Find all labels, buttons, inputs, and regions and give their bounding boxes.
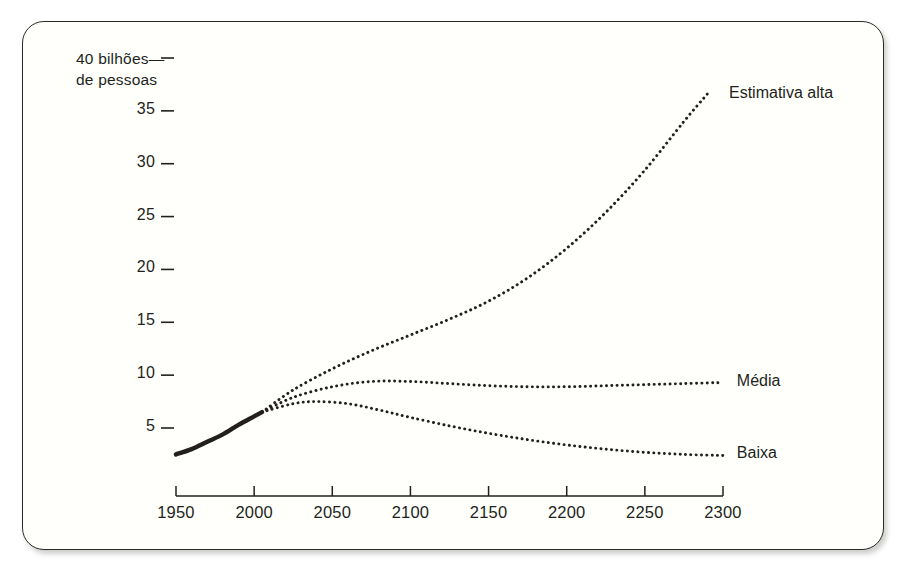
x-tick-label: 2200: [537, 503, 597, 522]
series-label: Estimativa alta: [729, 84, 833, 102]
y-tick-label: 25: [111, 206, 155, 224]
y-tick-label: 5: [111, 417, 155, 435]
series-line: [262, 402, 723, 456]
x-tick-label: 1950: [146, 503, 206, 522]
x-axis: [176, 486, 723, 496]
y-axis-tick-marks: [161, 58, 174, 428]
x-tick-label: 2300: [693, 503, 753, 522]
y-axis-title-line1: 40 bilhões—: [76, 50, 164, 67]
y-tick-label: 10: [111, 364, 155, 382]
series-label: Baixa: [737, 444, 777, 462]
series-lines: [176, 94, 723, 456]
y-axis-title: 40 bilhões—de pessoas: [76, 48, 164, 90]
x-tick-label: 2250: [615, 503, 675, 522]
series-line: [262, 381, 723, 412]
x-tick-label: 2050: [302, 503, 362, 522]
y-tick-label: 20: [111, 258, 155, 276]
x-tick-label: 2100: [380, 503, 440, 522]
x-tick-label: 2000: [224, 503, 284, 522]
y-tick-label: 30: [111, 153, 155, 171]
series-line: [176, 412, 262, 454]
x-tick-label: 2150: [459, 503, 519, 522]
y-tick-label: 15: [111, 311, 155, 329]
y-tick-label: 35: [111, 100, 155, 118]
series-line: [262, 94, 707, 412]
series-label: Média: [737, 372, 781, 390]
y-axis-title-line2: de pessoas: [76, 71, 157, 88]
